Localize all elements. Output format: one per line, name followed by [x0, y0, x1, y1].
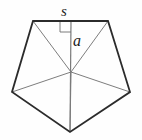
radius-to-left-line	[12, 72, 71, 92]
pentagon-diagram-svg	[0, 0, 142, 140]
right-angle-square-icon	[60, 21, 71, 32]
apothem-label: a	[73, 33, 81, 49]
radius-to-right-line	[71, 72, 130, 92]
pentagon-figure-container: s a	[0, 0, 142, 140]
apothem-line	[70, 21, 71, 132]
side-length-label: s	[61, 4, 67, 19]
radius-to-top-left-line	[33, 21, 71, 72]
